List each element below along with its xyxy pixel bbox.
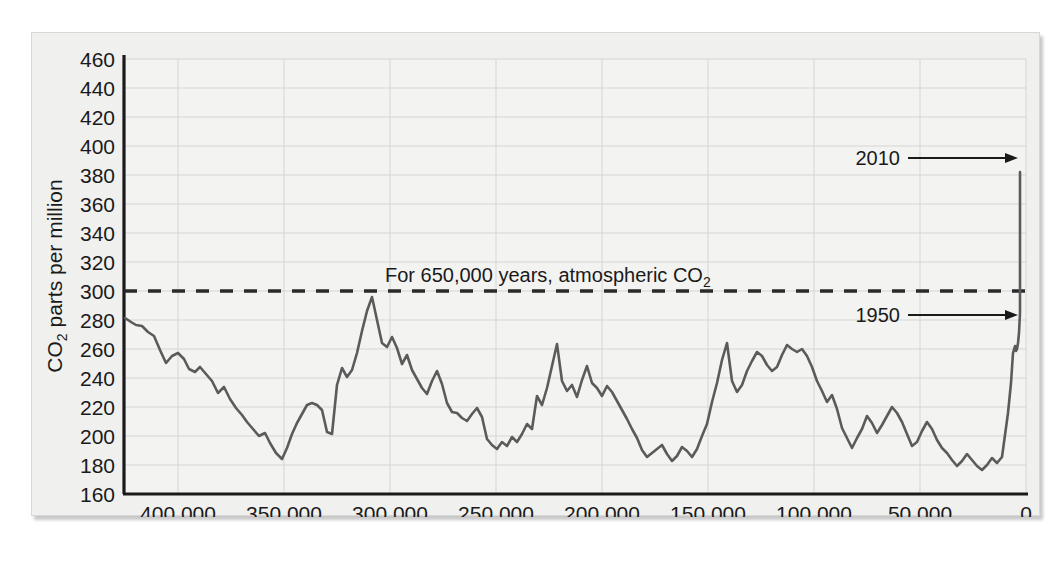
x-tick-label: 150,000 — [670, 502, 746, 517]
x-tick-label: 300,000 — [352, 502, 428, 517]
y-axis-title-rest: parts per million — [43, 179, 66, 333]
y-axis-title-lead: CO — [43, 341, 66, 373]
x-tick-labels: 400,000 350,000 300,000 250,000 200,000 … — [140, 502, 1032, 517]
annotation-2010-label: 2010 — [856, 147, 901, 169]
x-tick-label: 100,000 — [776, 502, 852, 517]
y-tick-label: 460 — [80, 48, 115, 71]
co2-line-chart: 460 440 420 400 380 360 340 320 300 280 … — [32, 33, 1041, 517]
y-tick-label: 340 — [80, 222, 115, 245]
y-tick-label: 440 — [80, 77, 115, 100]
figure-card: 460 440 420 400 380 360 340 320 300 280 … — [31, 32, 1040, 516]
reference-line-label-subscript: 2 — [703, 274, 711, 290]
y-axis-title: CO2 parts per million — [43, 179, 70, 372]
reference-line-label-lead: For 650,000 years, atmospheric CO — [385, 264, 703, 286]
x-tick-label: 200,000 — [564, 502, 640, 517]
annotation-1950-label: 1950 — [856, 304, 901, 326]
x-tick-label: 50,000 — [888, 502, 952, 517]
y-axis-title-subscript: 2 — [54, 333, 70, 341]
y-tick-label: 220 — [80, 396, 115, 419]
y-tick-label: 200 — [80, 425, 115, 448]
y-tick-label: 380 — [80, 164, 115, 187]
y-tick-label: 360 — [80, 193, 115, 216]
y-tick-label: 400 — [80, 135, 115, 158]
y-tick-label: 160 — [80, 483, 115, 506]
y-tick-label: 260 — [80, 338, 115, 361]
y-tick-label: 240 — [80, 367, 115, 390]
x-tick-label: 350,000 — [246, 502, 322, 517]
y-tick-label: 300 — [80, 280, 115, 303]
y-tick-label: 420 — [80, 106, 115, 129]
svg-text:CO2 parts per million: CO2 parts per million — [43, 179, 70, 372]
x-tick-label: 250,000 — [458, 502, 534, 517]
x-tick-label: 400,000 — [140, 502, 216, 517]
x-tick-label: 0 — [1020, 502, 1032, 517]
y-tick-label: 320 — [80, 251, 115, 274]
y-tick-label: 180 — [80, 454, 115, 477]
y-tick-label: 280 — [80, 309, 115, 332]
y-tick-labels: 460 440 420 400 380 360 340 320 300 280 … — [80, 48, 115, 506]
